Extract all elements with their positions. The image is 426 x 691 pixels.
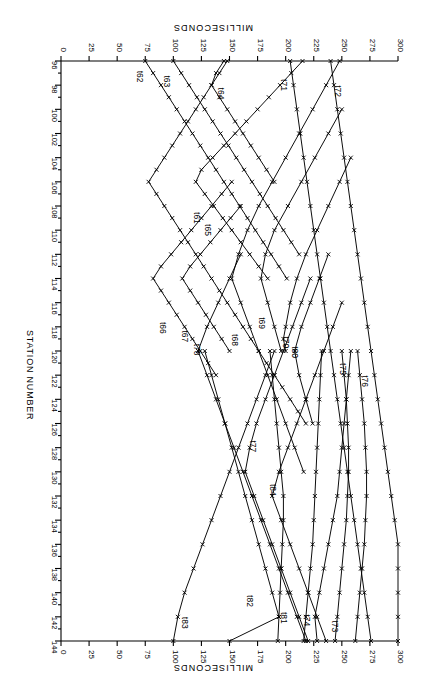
curve-label-t74: t74: [302, 614, 312, 626]
series-line: [245, 279, 310, 642]
station-tick-label: 106: [50, 182, 59, 195]
series-t77: t77: [243, 277, 312, 644]
time-tick-label: 25: [87, 43, 96, 52]
curve-label-t84: t84: [268, 484, 278, 496]
station-tick-label: 140: [50, 593, 59, 606]
time-tick-label: 175: [256, 650, 265, 664]
curve-label-t80: t80: [290, 346, 300, 358]
station-tick-label: 116: [50, 303, 59, 315]
rotated-figure: MILLISECONDS MILLISECONDS 30027525022520…: [0, 0, 426, 691]
time-tick-label: 125: [199, 650, 208, 664]
series-t82: t82: [203, 349, 281, 643]
station-tick-label: 112: [50, 254, 59, 266]
curve-label-t66: t66: [158, 322, 168, 334]
station-tick-label: 134: [50, 520, 59, 533]
curve-label-t82: t82: [245, 595, 255, 607]
series-line: [261, 109, 342, 351]
time-tick-label: 100: [171, 39, 180, 53]
curve-label-t62: t62: [135, 71, 145, 83]
time-tick-label: 200: [284, 650, 293, 664]
station-tick-label: 130: [50, 472, 59, 485]
series-line: [212, 61, 275, 182]
time-tick-label: 75: [143, 650, 152, 659]
curve-label-t61: t61: [192, 212, 202, 224]
station-tick-label: 96: [50, 61, 59, 69]
curve-label-t76: t76: [360, 375, 370, 387]
station-tick-label: 142: [50, 617, 59, 630]
series-t62: t62: [135, 59, 288, 281]
series-t76: t76: [353, 349, 370, 643]
figure-root: MILLISECONDS MILLISECONDS 30027525022520…: [0, 0, 426, 691]
time-tick-label: 250: [340, 39, 349, 53]
curve-label-t71: t71: [279, 79, 289, 91]
time-tick-label: 50: [115, 43, 124, 52]
time-tick-label: 50: [115, 650, 124, 659]
time-tick-label: 300: [396, 39, 405, 53]
time-tick-label: 275: [368, 650, 377, 664]
time-tick-label: 25: [87, 650, 96, 659]
series-t65: t65: [194, 59, 305, 281]
time-tick-label: 275: [368, 39, 377, 53]
time-tick-label: 150: [228, 650, 237, 664]
time-tick-label: 200: [284, 39, 293, 53]
series-t61: t61: [147, 59, 308, 426]
series-t75: t75: [333, 349, 350, 643]
curve-label-t68: t68: [230, 334, 240, 346]
curve-label-t75: t75: [338, 363, 348, 375]
station-tick-label: 98: [50, 85, 59, 93]
series-t69: t69: [257, 107, 344, 353]
station-tick-label: 122: [50, 375, 59, 388]
time-tick-label: 0: [59, 650, 68, 655]
series-t74: t74: [302, 349, 324, 643]
station-tick-label: 136: [50, 544, 59, 557]
time-tick-label: 75: [143, 43, 152, 52]
curve-label-t72: t72: [333, 85, 343, 97]
time-tick-label: 225: [312, 650, 321, 664]
curve-label-t83: t83: [180, 617, 190, 629]
station-tick-label: 118: [50, 327, 59, 339]
series-t72: t72: [329, 59, 400, 643]
series-line: [149, 61, 306, 424]
station-tick-label: 128: [50, 448, 59, 461]
time-tick-label: 0: [59, 48, 68, 53]
time-tick-label: 175: [256, 39, 265, 53]
station-tick-label: 126: [50, 424, 59, 437]
series-t64: t64: [210, 59, 277, 184]
station-tick-label: 100: [50, 109, 59, 122]
curve-label-t69: t69: [257, 317, 267, 329]
station-tick-label: 144: [50, 641, 59, 654]
curve-label-t64: t64: [216, 88, 226, 100]
series-line: [205, 351, 279, 641]
station-tick-label: 124: [50, 399, 59, 412]
station-tick-label: 108: [50, 206, 59, 219]
curve-label-t77: t77: [248, 440, 258, 452]
station-tick-label: 120: [50, 351, 59, 364]
station-tick-label: 102: [50, 134, 59, 147]
curve-label-t63: t63: [162, 76, 172, 88]
series-line: [331, 61, 398, 641]
series-t83: t83: [171, 349, 276, 643]
time-tick-label: 125: [199, 39, 208, 53]
station-tick-label: 138: [50, 569, 59, 582]
travel-time-plot: 3002752502252001751501251007550250300275…: [0, 0, 426, 691]
station-tick-label: 110: [50, 230, 59, 242]
curve-label-t73: t73: [330, 620, 340, 632]
curve-label-t67: t67: [180, 330, 190, 342]
station-axis-title: STATION NUMBER: [25, 330, 35, 420]
curve-label-t65: t65: [203, 224, 213, 236]
station-tick-label: 114: [50, 279, 59, 291]
time-tick-label: 300: [396, 650, 405, 664]
time-tick-label: 225: [312, 39, 321, 53]
station-tick-label: 104: [50, 158, 59, 171]
time-tick-label: 100: [171, 650, 180, 664]
curve-label-t78: t78: [192, 344, 202, 356]
time-tick-label: 250: [340, 650, 349, 664]
series-line: [196, 61, 303, 279]
station-tick-label: 132: [50, 496, 59, 509]
series-line: [173, 351, 274, 641]
time-tick-label: 150: [228, 39, 237, 53]
